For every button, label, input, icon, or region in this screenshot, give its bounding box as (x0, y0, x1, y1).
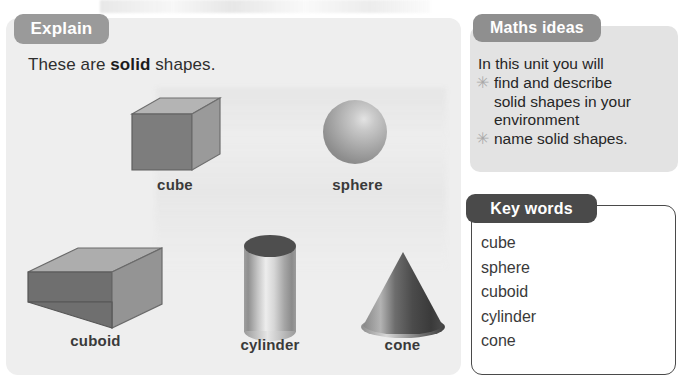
maths-ideas-intro: In this unit you will (478, 55, 604, 73)
shape-cell-sphere: sphere (295, 96, 420, 196)
maths-ideas-item-text: environment (494, 111, 579, 128)
maths-ideas-item: ✳find and describe (476, 74, 676, 92)
sentence-suffix: shapes. (150, 55, 215, 74)
shape-label-cube: cube (100, 176, 250, 193)
shape-label-cone: cone (340, 336, 465, 353)
sentence-prefix: These are (28, 55, 110, 74)
key-words-tab: Key words (466, 194, 597, 223)
maths-ideas-list: ✳find and describesolid shapes in youren… (476, 74, 676, 148)
asterisk-bullet-icon: ✳ (476, 74, 489, 92)
shape-label-cylinder: cylinder (210, 336, 330, 353)
asterisk-bullet-icon: ✳ (476, 130, 489, 148)
explain-tab: Explain (14, 14, 109, 44)
key-word-item: sphere (481, 256, 536, 281)
explain-tab-label: Explain (31, 19, 93, 39)
shape-label-sphere: sphere (295, 176, 420, 193)
cube-3d-icon (130, 96, 222, 174)
cuboid-3d-icon (26, 246, 166, 331)
shape-label-cuboid: cuboid (18, 332, 173, 349)
shape-cell-cylinder: cylinder (210, 232, 330, 352)
maths-ideas-item: environment (476, 111, 676, 129)
key-word-item: cylinder (481, 305, 536, 330)
maths-ideas-item: solid shapes in your (476, 93, 676, 111)
maths-ideas-item-text: name solid shapes. (494, 130, 628, 147)
key-word-item: cube (481, 231, 536, 256)
key-word-item: cuboid (481, 280, 536, 305)
key-words-list: cubespherecuboidcylindercone (481, 231, 536, 354)
shape-cell-cube: cube (100, 96, 250, 196)
shape-cell-cone: cone (340, 248, 465, 352)
maths-ideas-item-text: solid shapes in your (494, 93, 631, 110)
maths-ideas-item: ✳name solid shapes. (476, 130, 676, 148)
sentence-bold-word: solid (110, 55, 150, 74)
explain-sentence: These are solid shapes. (28, 55, 216, 75)
maths-ideas-item-text: find and describe (494, 74, 612, 91)
key-word-item: cone (481, 329, 536, 354)
shape-cell-cuboid: cuboid (18, 246, 173, 351)
maths-ideas-tab-label: Maths ideas (490, 19, 584, 37)
maths-ideas-tab: Maths ideas (473, 14, 601, 42)
sphere-3d-icon (323, 100, 387, 164)
cylinder-3d-icon (210, 232, 330, 352)
scan-bleed-top (100, 0, 430, 13)
key-words-tab-label: Key words (490, 200, 573, 218)
